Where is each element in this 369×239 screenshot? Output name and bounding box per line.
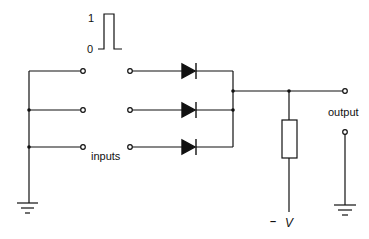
input-terminal-1a[interactable]: [81, 69, 86, 74]
resistor: [282, 120, 297, 158]
input-terminal-3b[interactable]: [128, 145, 133, 150]
output-terminal-bottom[interactable]: [343, 130, 348, 135]
input-terminal-3a[interactable]: [81, 145, 86, 150]
supply-sign: –: [270, 216, 276, 227]
diode-1: [182, 63, 196, 79]
ground-icon-left: [17, 203, 38, 213]
diode-2: [182, 102, 196, 118]
inputs-label: inputs: [91, 151, 120, 162]
output-label: output: [328, 107, 359, 118]
supply-label: V: [285, 217, 293, 229]
input-terminal-2a[interactable]: [81, 108, 86, 113]
input-terminal-1b[interactable]: [128, 69, 133, 74]
diode-3: [182, 139, 196, 155]
pulse-low-label: 0: [87, 44, 93, 55]
ground-icon-right: [334, 205, 356, 215]
input-terminal-2b[interactable]: [128, 108, 133, 113]
pulse-waveform: [98, 14, 122, 49]
pulse-high-label: 1: [88, 13, 94, 24]
circuit-diagram: [0, 0, 369, 239]
output-terminal-top[interactable]: [343, 89, 348, 94]
